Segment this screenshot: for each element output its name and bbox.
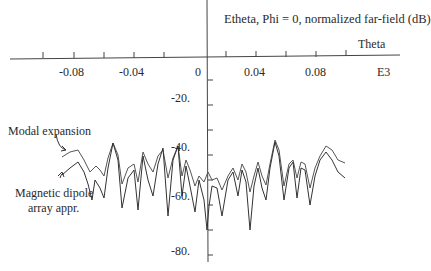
legend-magnetic-dipole-line2: array appr. (28, 202, 79, 214)
chart-title: Etheta, Phi = 0, normalized far-field (d… (224, 13, 431, 26)
x-tick-label: -0.04 (119, 66, 144, 78)
y-ticks (208, 80, 213, 255)
x-tick-label: 0.08 (305, 66, 326, 78)
series-modal-expansion (62, 140, 345, 192)
x-tick-label: -0.08 (59, 66, 84, 78)
y-tick-label: -60. (171, 190, 190, 202)
y-tick-label: -40. (171, 141, 190, 153)
x-unit-suffix: E3 (377, 66, 390, 78)
legend-magnetic-dipole-line1: Magnetic dipole (15, 187, 93, 199)
x-axis (10, 55, 400, 59)
x-tick-label: 0 (195, 66, 201, 78)
x-axis-label: Theta (358, 38, 385, 50)
y-tick-label: -80. (171, 245, 190, 257)
legend-modal-expansion: Modal expansion (8, 125, 91, 137)
y-tick-label: -20. (171, 92, 190, 104)
x-tick-label: 0.04 (244, 66, 265, 78)
series-magnetic-dipole (62, 142, 345, 230)
